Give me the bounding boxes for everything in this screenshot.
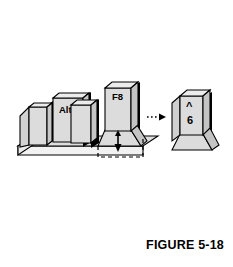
key-blank-left-right-face xyxy=(47,103,52,145)
key-blank-mid-right-face xyxy=(91,100,97,143)
result-key-right-face xyxy=(203,90,210,135)
result-key-left-face xyxy=(172,96,180,141)
base-front-face xyxy=(18,146,143,155)
dotted-arrow-head xyxy=(159,114,166,121)
key-blank-mid-front-face xyxy=(71,105,91,143)
result-key-caret-label: ^ xyxy=(186,100,193,112)
key-blank-left-front-face xyxy=(29,107,47,145)
key-f8-right-face xyxy=(131,82,138,131)
keyboard-key-blank-mid[interactable] xyxy=(71,99,99,148)
result-key-caret-six[interactable]: ^ 6 xyxy=(172,90,219,150)
dotted-right-arrow xyxy=(147,114,166,121)
keyboard-key-press-illustration: Alt F8 xyxy=(0,0,233,233)
keyboard-key-f8[interactable]: F8 xyxy=(98,82,147,146)
keyboard-key-blank-left[interactable] xyxy=(20,101,53,147)
result-key-six-label: 6 xyxy=(187,114,193,126)
key-blank-left-side-face xyxy=(20,107,29,147)
figure-caption: FIGURE 5-18 xyxy=(0,238,224,252)
key-f8-label: F8 xyxy=(112,91,123,102)
figure-container: Alt F8 xyxy=(0,0,233,267)
